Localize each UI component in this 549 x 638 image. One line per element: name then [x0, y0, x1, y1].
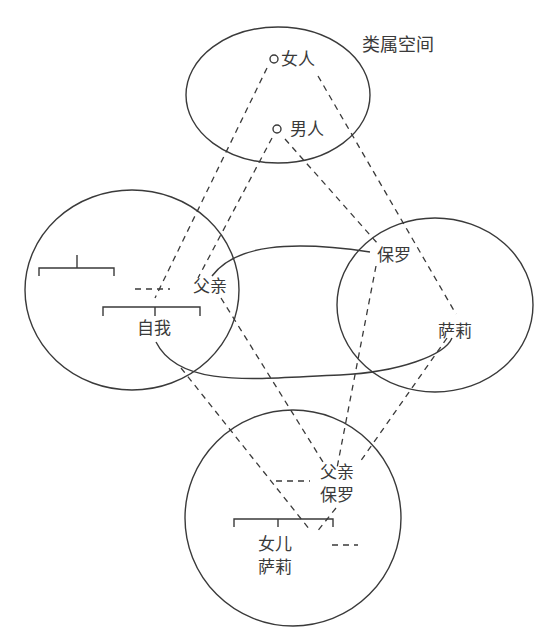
projection-paul-to-blend [337, 266, 376, 468]
projection-self-to-daughter [181, 368, 310, 530]
generic-space-ellipse [186, 27, 370, 163]
blend-father-label: 父亲 [320, 462, 354, 482]
tree-self-bracket [103, 307, 200, 316]
blend-paul-label: 保罗 [320, 485, 354, 505]
conceptual-blending-diagram: 类属空间 女人 男人 父亲 自我 保罗 萨莉 父亲 保罗 女儿 萨莉 [0, 0, 549, 638]
generic-space-title: 类属空间 [362, 34, 434, 55]
input-space-2-ellipse [337, 218, 533, 392]
node-father-label: 父亲 [193, 276, 227, 296]
node-man-label: 男人 [290, 119, 324, 139]
cross-map-woman-right [318, 76, 456, 314]
node-woman-label: 女人 [281, 49, 315, 69]
tree-parent-bracket [39, 268, 114, 276]
connector-father-paul [212, 246, 370, 276]
node-paul-label: 保罗 [377, 245, 411, 265]
blended-space-ellipse [185, 410, 401, 626]
blend-sally-label: 萨莉 [258, 557, 292, 577]
node-man-marker [273, 125, 281, 133]
node-self-label: 自我 [137, 318, 171, 338]
blend-tree-bracket [234, 519, 333, 527]
blend-daughter-label: 女儿 [258, 534, 292, 554]
node-sally-label: 萨莉 [438, 321, 472, 341]
connector-self-sally [156, 338, 452, 379]
node-woman-marker [270, 55, 278, 63]
projection-sally-to-blend [360, 338, 447, 462]
cross-map-woman-left [155, 68, 267, 298]
